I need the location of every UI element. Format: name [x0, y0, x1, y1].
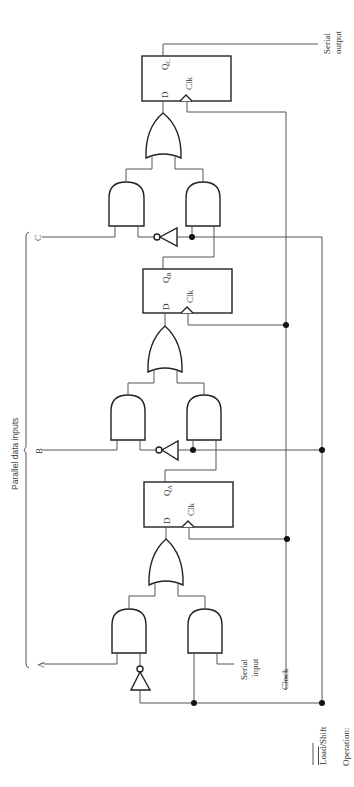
serial-input-wire: [217, 653, 234, 664]
and-gate-c-right: [186, 182, 220, 226]
inverter-b: [162, 441, 178, 460]
serial-input-label-1: Serial: [239, 659, 249, 680]
or-gate-c: [146, 113, 181, 158]
shift-register-diagram: D QC Clk C D QB Clk: [0, 0, 354, 787]
ff-b-clk-label: Clk: [185, 289, 195, 303]
input-b-wire: [42, 440, 117, 450]
operation-label: Operation:: [341, 728, 351, 767]
ff-c-clk-label: Clk: [184, 76, 194, 90]
ff-c-d-label: D: [160, 91, 170, 98]
and-gate-b-right: [187, 395, 221, 440]
serial-input-label-2: input: [250, 658, 260, 677]
inverter-a: [131, 672, 150, 690]
stage-b: D QB Clk B: [34, 269, 325, 482]
input-c-wire: [42, 226, 115, 237]
parallel-inputs-label: Parallel data inputs: [10, 418, 20, 490]
ff-a-d-label: D: [162, 517, 172, 524]
input-b-label: B: [34, 448, 44, 454]
load-shift-label: Load/Shift: [318, 726, 328, 765]
or-gate-a: [149, 539, 183, 585]
and-gate-b-left: [111, 395, 145, 440]
or-gate-b: [148, 326, 182, 372]
inverter-c: [160, 228, 177, 246]
and-gate-a-left: [112, 609, 146, 653]
input-a-wire: [44, 653, 117, 664]
clock-label: Clock: [280, 668, 290, 690]
and-gate-a-right: [188, 609, 222, 653]
serial-output-label-1: Serial: [322, 33, 332, 54]
ff-a-clk-label: Clk: [186, 502, 196, 516]
input-c-label: C: [33, 235, 43, 241]
serial-output-label-2: output: [333, 30, 343, 54]
ff-b-d-label: D: [161, 303, 171, 310]
parallel-inputs-bracket: [24, 232, 29, 668]
and-gate-c-left: [109, 182, 144, 226]
serial-output-wire: [163, 44, 318, 56]
input-a-label: A: [36, 661, 46, 668]
